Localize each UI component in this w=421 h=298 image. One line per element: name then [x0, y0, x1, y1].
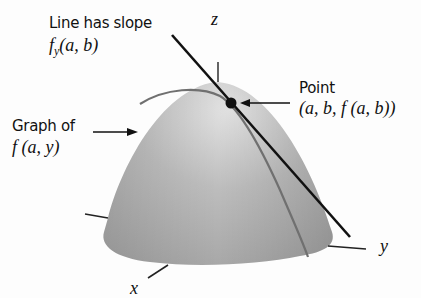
- x-axis-label: x: [130, 279, 138, 297]
- slope-expression: fy(a, b): [49, 36, 98, 54]
- point-title: Point: [299, 81, 335, 96]
- z-axis-label: z: [211, 10, 218, 28]
- left-axis-stub: [85, 214, 108, 218]
- graph-expression: f (a, y): [12, 138, 59, 156]
- diagram-canvas: Line has slope fy(a, b) z Point (a, b, f…: [0, 0, 421, 298]
- y-axis-line: [328, 246, 366, 249]
- slope-args: (a, b): [59, 35, 98, 55]
- slope-subscript: y: [54, 44, 59, 58]
- graph-title: Graph of: [12, 119, 75, 134]
- point-expression: (a, b, f (a, b)): [299, 99, 395, 117]
- y-axis-label: y: [380, 237, 388, 255]
- point-marker: [226, 98, 237, 109]
- x-axis-line: [148, 265, 168, 278]
- graph-arrowhead: [127, 128, 138, 136]
- slope-title: Line has slope: [49, 16, 152, 31]
